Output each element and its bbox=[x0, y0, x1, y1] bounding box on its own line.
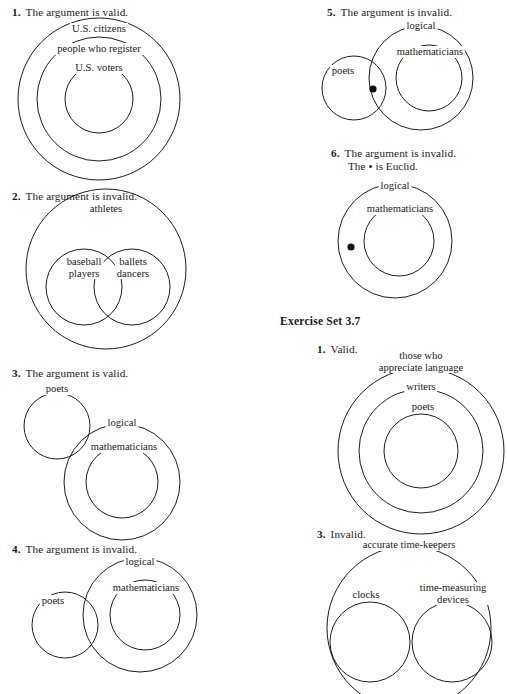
problem-6-label-logical: logical bbox=[379, 180, 412, 192]
problem-1-label-outer: U.S. citizens bbox=[70, 23, 128, 35]
problem-2-label-left-inner: baseball players bbox=[65, 256, 104, 279]
exercise-set-heading: Exercise Set 3.7 bbox=[280, 315, 361, 328]
left-column: 1.The argument is valid. U.S. citizens p… bbox=[0, 0, 253, 693]
problem-4-label-poets: poets bbox=[40, 595, 66, 607]
problem-4-label-mathematicians: mathematicians bbox=[111, 582, 181, 594]
exercise-3-label-outer: accurate time-keepers bbox=[361, 539, 458, 551]
exercise-1-label-outer-line2: appreciate language bbox=[379, 362, 463, 373]
problem-3-label-logical: logical bbox=[106, 417, 139, 429]
problem-3-label-poets: poets bbox=[44, 383, 70, 395]
problem-5-label-logical: logical bbox=[405, 20, 438, 32]
problem-5-label-mathematicians: mathematicians bbox=[395, 46, 465, 58]
problem-1-label-middle: people who register bbox=[55, 43, 143, 55]
exercise-3-label-right-inner: time-measuring devices bbox=[418, 582, 489, 605]
exercise-1-label-inner: poets bbox=[410, 401, 436, 413]
problem-2-label-left-inner-line2: players bbox=[69, 268, 100, 279]
problem-5-label-poets: poets bbox=[330, 65, 356, 77]
problem-2-label-outer: athletes bbox=[88, 203, 124, 215]
problem-2-label-right-inner-line1: ballets bbox=[119, 256, 147, 267]
exercise-3-label-left-inner: clocks bbox=[350, 589, 381, 601]
problem-4-label-logical: logical bbox=[124, 556, 157, 568]
exercise-3-label-right-inner-line2: devices bbox=[437, 594, 469, 605]
problem-3-label-mathematicians: mathematicians bbox=[89, 441, 159, 453]
problem-6-diagram bbox=[253, 150, 507, 305]
right-column: 5.The argument is invalid. logical mathe… bbox=[253, 0, 507, 693]
exercise-1-label-outer: those who appreciate language bbox=[377, 350, 465, 373]
problem-5-diagram bbox=[253, 0, 507, 150]
problem-1-label-inner: U.S. voters bbox=[73, 62, 124, 74]
problem-6-label-mathematicians: mathematicians bbox=[365, 203, 435, 215]
problem-2-label-right-inner-line2: dancers bbox=[117, 268, 149, 279]
exercise-1-label-middle: writers bbox=[404, 381, 437, 393]
problem-2-label-left-inner-line1: baseball bbox=[67, 256, 102, 267]
problem-2-label-right-inner: ballets dancers bbox=[115, 256, 151, 279]
exercise-3-label-right-inner-line1: time-measuring bbox=[420, 582, 487, 593]
exercise-1-label-outer-line1: those who bbox=[399, 350, 442, 361]
